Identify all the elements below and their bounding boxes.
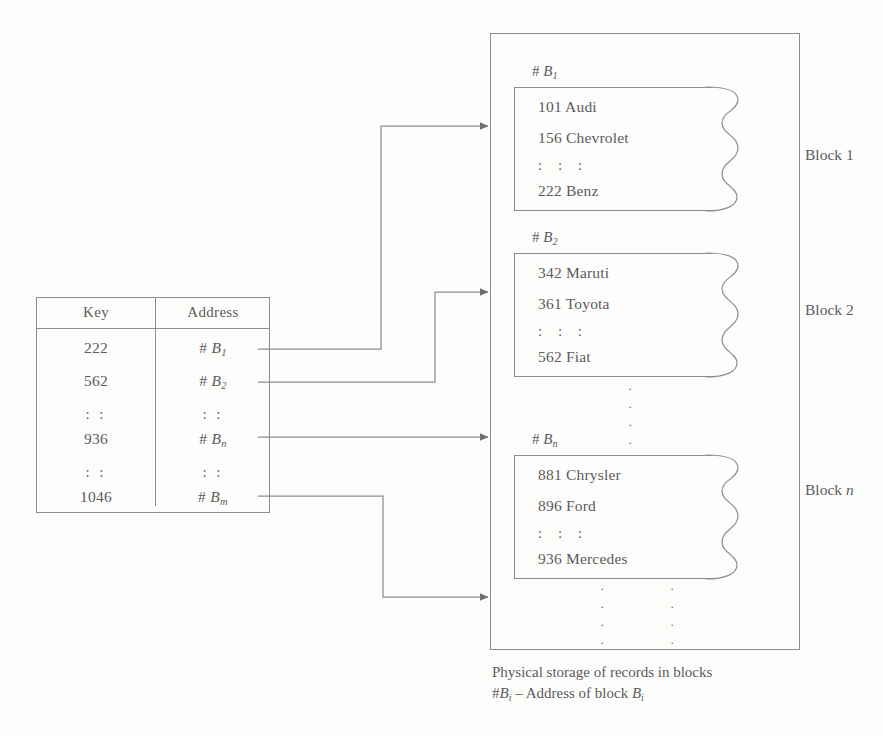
table-row-ellipsis: : :: [37, 464, 155, 481]
arrow-b2: [258, 292, 488, 382]
table-row: # B1: [155, 339, 271, 358]
table-row: 936: [37, 430, 155, 448]
block-box-n: # Bn 881 Chrysler 896 Ford : : : 936 Mer…: [514, 455, 746, 579]
address-hash: #: [199, 339, 211, 356]
block-box-2: # B2 342 Maruti 361 Toyota : : : 562 Fia…: [514, 253, 746, 377]
address-hash: #: [198, 488, 210, 505]
hash-symbol: #: [532, 63, 543, 79]
arrow-b1: [258, 126, 488, 349]
address-base: B: [211, 372, 221, 389]
torn-edge-icon: [704, 454, 752, 580]
torn-edge-icon: [704, 252, 752, 378]
table-row: # Bn: [155, 430, 271, 449]
block-box-1: # B1 101 Audi 156 Chevrolet : : : 222 Be…: [514, 87, 746, 211]
figure-caption: Physical storage of records in blocks #B…: [492, 662, 712, 708]
table-row: 1046: [37, 488, 155, 506]
table-row: # B2: [155, 372, 271, 391]
address-subscript: 2: [221, 380, 227, 391]
record-ellipsis: : : :: [538, 323, 588, 340]
figure-canvas: Key Address 222 # B1 562 # B2 : : : : 93…: [0, 0, 883, 736]
table-row-ellipsis: : :: [155, 406, 271, 423]
column-header-key: Key: [37, 304, 155, 321]
vertical-ellipsis-middle: · · · ·: [628, 380, 632, 452]
block-address-label-2: # B2: [532, 229, 558, 247]
table-header-rule: [37, 328, 269, 329]
record-item: 936 Mercedes: [538, 550, 628, 568]
block-address-label-n: # Bn: [532, 431, 558, 449]
block-caption-n: Block n: [805, 481, 854, 499]
hash-symbol: #: [492, 685, 500, 701]
address-subscript: n: [552, 438, 557, 449]
vertical-ellipsis-bottom-left: · · · ·: [600, 580, 604, 652]
hash-symbol: #: [532, 431, 543, 447]
record-item: 896 Ford: [538, 497, 596, 515]
address-hash: #: [199, 372, 211, 389]
hash-symbol: #: [532, 229, 543, 245]
record-item: 222 Benz: [538, 182, 599, 200]
table-row-ellipsis: : :: [155, 464, 271, 481]
arrow-bm: [258, 496, 488, 597]
table-row: # Bm: [155, 488, 271, 507]
table-row: 562: [37, 372, 155, 390]
record-item: 101 Audi: [538, 98, 597, 116]
caption-line-1: Physical storage of records in blocks: [492, 662, 712, 683]
address-subscript: n: [221, 438, 227, 449]
block-caption-2: Block 2: [805, 301, 854, 319]
record-ellipsis: : : :: [538, 157, 588, 174]
record-item: 361 Toyota: [538, 295, 610, 313]
caption-line-2: #Bi – Address of block Bi: [492, 683, 712, 708]
column-header-address: Address: [155, 304, 271, 321]
vertical-ellipsis-bottom-right: · · · ·: [670, 580, 674, 652]
block-caption-1: Block 1: [805, 146, 854, 164]
address-subscript: 2: [552, 236, 557, 247]
table-row-ellipsis: : :: [37, 406, 155, 423]
record-item: 342 Maruti: [538, 264, 609, 282]
torn-edge-icon: [704, 86, 752, 212]
record-item: 156 Chevrolet: [538, 129, 629, 147]
address-subscript: 1: [221, 347, 227, 358]
record-ellipsis: : : :: [538, 525, 588, 542]
address-base: B: [211, 339, 221, 356]
record-item: 562 Fiat: [538, 348, 591, 366]
address-subscript: 1: [552, 70, 557, 81]
address-hash: #: [199, 430, 211, 447]
address-base: B: [210, 488, 220, 505]
index-table: Key Address 222 # B1 562 # B2 : : : : 93…: [36, 297, 270, 513]
address-base: B: [211, 430, 221, 447]
record-item: 881 Chrysler: [538, 466, 621, 484]
address-subscript: m: [220, 496, 228, 507]
table-row: 222: [37, 339, 155, 357]
block-address-label-1: # B1: [532, 63, 558, 81]
